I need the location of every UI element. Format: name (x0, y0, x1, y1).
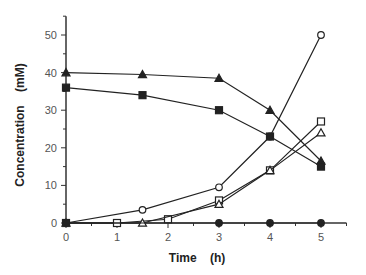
y-tick-label: 0 (51, 217, 57, 229)
x-axis-title: Time (h) (169, 251, 225, 265)
series-line (66, 121, 321, 223)
open-square-marker-icon (318, 118, 325, 125)
filled-square-marker-icon (139, 92, 146, 99)
filled-circle-marker-icon (216, 220, 223, 227)
series-filled-triangle (62, 69, 325, 165)
series-group (62, 32, 325, 227)
series-open-circle (63, 32, 325, 227)
x-tick-label: 3 (216, 231, 222, 243)
filled-square-marker-icon (267, 133, 274, 140)
series-line (66, 73, 321, 161)
filled-square-marker-icon (63, 84, 70, 91)
open-circle-marker-icon (216, 184, 223, 191)
line-chart: 01020304050012345 Time (h) Concentration… (0, 0, 366, 275)
x-tick-label: 5 (318, 231, 324, 243)
y-tick-label: 40 (45, 67, 57, 79)
filled-square-marker-icon (216, 107, 223, 114)
open-triangle-marker-icon (317, 129, 325, 136)
y-tick-label: 20 (45, 142, 57, 154)
x-tick-label: 4 (267, 231, 273, 243)
open-circle-marker-icon (318, 32, 325, 39)
y-tick-label: 30 (45, 104, 57, 116)
y-axis-title: Concentration (mM) (13, 63, 27, 186)
x-tick-label: 0 (63, 231, 69, 243)
filled-circle-marker-icon (267, 220, 274, 227)
filled-square-marker-icon (318, 163, 325, 170)
open-circle-marker-icon (139, 207, 146, 214)
filled-circle-marker-icon (63, 220, 70, 227)
x-tick-label: 1 (114, 231, 120, 243)
y-tick-label: 10 (45, 179, 57, 191)
y-tick-label: 50 (45, 29, 57, 41)
series-line (66, 88, 321, 167)
series-filled-square (63, 84, 325, 170)
series-open-triangle (62, 129, 325, 226)
series-line (66, 35, 321, 223)
filled-circle-marker-icon (318, 220, 325, 227)
filled-triangle-marker-icon (266, 106, 274, 113)
x-tick-label: 2 (165, 231, 171, 243)
